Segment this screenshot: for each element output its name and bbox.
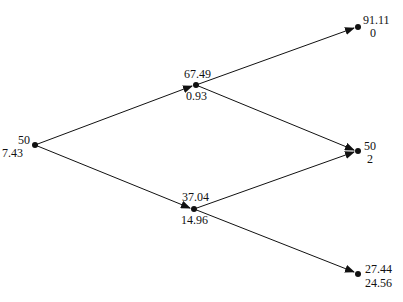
node-downdown-price: 27.44 [365, 263, 392, 276]
node-root-dot [32, 142, 38, 148]
node-updown-value: 2 [367, 153, 373, 166]
node-root-value: 7.43 [2, 147, 23, 160]
node-up-dot [193, 82, 199, 88]
edge-up-upup [196, 28, 354, 85]
node-down-dot [191, 206, 197, 212]
node-upup-dot [355, 24, 361, 30]
node-down-value: 14.96 [181, 214, 208, 227]
edge-up-updown [196, 85, 354, 150]
tree-edges [0, 0, 403, 302]
edge-root-down [35, 145, 190, 208]
node-upup-value: 0 [370, 27, 376, 40]
edge-down-updown [194, 152, 354, 209]
node-downdown-dot [355, 271, 361, 277]
node-up-price: 67.49 [184, 68, 211, 81]
edge-down-downdown [194, 209, 354, 272]
node-upup-price: 91.11 [363, 14, 390, 27]
node-updown-dot [355, 148, 361, 154]
node-downdown-value: 24.56 [365, 277, 392, 290]
node-up-value: 0.93 [186, 90, 207, 103]
edge-root-up [35, 86, 192, 145]
node-down-price: 37.04 [182, 191, 209, 204]
